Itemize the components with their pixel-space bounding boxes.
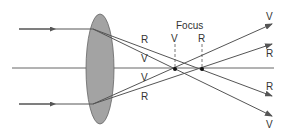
focus-r-label: R: [198, 33, 205, 44]
lens-ray-label-3: V: [141, 72, 148, 83]
ray-top-violet: [93, 29, 272, 116]
right-ray-label-2: R: [266, 48, 273, 59]
convex-lens: [86, 14, 114, 124]
lens-ray-label-1: R: [141, 34, 148, 45]
focus-v-label: V: [171, 33, 178, 44]
right-ray-label-1: V: [266, 11, 273, 22]
ray-bottom-violet: [93, 24, 272, 104]
focus-point-r: [200, 67, 204, 71]
ray-top-red: [93, 29, 272, 96]
right-ray-label-3: R: [266, 81, 273, 92]
lens-ray-label-2: V: [141, 53, 148, 64]
lens-diagram: Focus V R R V V R V R R V: [0, 0, 288, 135]
focus-point-v: [173, 67, 177, 71]
right-ray-label-4: V: [266, 119, 273, 130]
diagram-svg: Focus V R R V V R V R R V: [0, 0, 288, 135]
lens-ray-label-4: R: [141, 91, 148, 102]
focus-label: Focus: [176, 20, 203, 31]
ray-bottom-red: [93, 44, 272, 104]
